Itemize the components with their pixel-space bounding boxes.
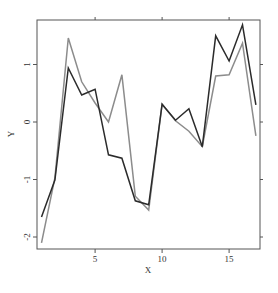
x-axis: 51015: [93, 249, 234, 264]
x-tick-label: 15: [225, 254, 235, 264]
y-tick-label: 1: [22, 62, 32, 67]
x-tick-label: 5: [93, 254, 98, 264]
x-tick-label: 10: [158, 254, 168, 264]
series-2-line: [42, 38, 256, 243]
plot-frame: [37, 20, 260, 249]
line-chart: 51015 -2-101 X Y: [0, 0, 278, 293]
y-axis-title: Y: [6, 130, 16, 137]
x-axis-title: X: [145, 265, 152, 275]
y-axis: -2-101: [22, 62, 37, 241]
plot-lines: [42, 25, 256, 243]
y-tick-label: -1: [22, 176, 32, 184]
y-tick-label: 0: [22, 119, 32, 124]
y-tick-label: -2: [22, 233, 32, 241]
